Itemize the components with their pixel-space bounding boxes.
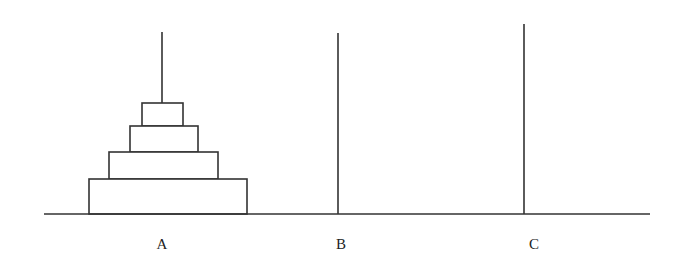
disk-1 xyxy=(142,103,183,126)
disk-3 xyxy=(109,152,218,179)
disk-2 xyxy=(130,126,198,152)
disk-4 xyxy=(89,179,247,214)
peg-label-a: A xyxy=(157,236,168,253)
peg-label-c: C xyxy=(529,236,539,253)
peg-label-b: B xyxy=(336,236,346,253)
hanoi-diagram xyxy=(0,0,684,274)
